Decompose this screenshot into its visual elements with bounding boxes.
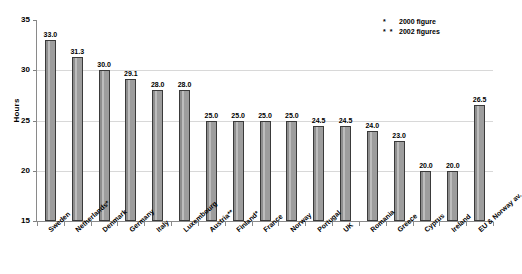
- x-tick-mark: [278, 222, 279, 226]
- x-tick-mark: [225, 222, 226, 226]
- bar-group: 24.0: [367, 20, 378, 221]
- x-axis-label: UK: [342, 221, 354, 233]
- x-tick-mark: [439, 222, 440, 226]
- bar-value-label: 28.0: [151, 81, 165, 88]
- x-tick-mark: [91, 222, 92, 226]
- bar-value-label: 23.0: [392, 132, 406, 139]
- y-tick-label: 25: [8, 117, 30, 125]
- bar-value-label: 25.0: [231, 112, 245, 119]
- bar-group: 24.5: [340, 20, 351, 221]
- bar-group: 25.0: [233, 20, 244, 221]
- bar[interactable]: [447, 171, 458, 221]
- bar-value-label: 31.3: [70, 48, 84, 55]
- chart-legend: *2000 figure* *2002 figures: [383, 18, 440, 38]
- bar-value-label: 29.1: [124, 70, 138, 77]
- bar-value-label: 26.5: [473, 96, 487, 103]
- bar-group: 24.5: [313, 20, 324, 221]
- plot-area: 33.031.330.029.128.028.025.025.025.025.0…: [37, 20, 493, 221]
- bar-value-label: 20.0: [419, 162, 433, 169]
- x-tick-mark: [252, 222, 253, 226]
- legend-label: 2002 figures: [399, 28, 440, 35]
- legend-row: * *2002 figures: [383, 28, 440, 38]
- bar-value-label: 24.0: [365, 122, 379, 129]
- x-tick-mark: [117, 222, 118, 226]
- bar-group: 20.0: [420, 20, 431, 221]
- bar-value-label: 25.0: [205, 112, 219, 119]
- y-tick-label: 20: [8, 167, 30, 175]
- bar-value-label: 28.0: [178, 81, 192, 88]
- bar-value-label: 24.5: [312, 117, 326, 124]
- bar[interactable]: [72, 57, 83, 221]
- bar-group: 31.3: [72, 20, 83, 221]
- y-axis-title: Hours: [12, 81, 21, 141]
- bar[interactable]: [99, 70, 110, 221]
- bar[interactable]: [125, 79, 136, 221]
- legend-marker: * *: [383, 28, 399, 35]
- x-tick-mark: [64, 222, 65, 226]
- bar-group: 28.0: [179, 20, 190, 221]
- bar-value-label: 33.0: [44, 31, 58, 38]
- bar-group: 20.0: [447, 20, 458, 221]
- bar[interactable]: [313, 126, 324, 221]
- bar-group: 23.0: [394, 20, 405, 221]
- bar-value-label: 30.0: [97, 61, 111, 68]
- legend-label: 2000 figure: [399, 18, 436, 25]
- y-tick-label: 15: [8, 217, 30, 225]
- x-tick-mark: [171, 222, 172, 226]
- x-tick-mark: [413, 222, 414, 226]
- bar[interactable]: [394, 141, 405, 221]
- bar-group: 26.5: [474, 20, 485, 221]
- x-tick-mark: [386, 222, 387, 226]
- bar[interactable]: [179, 90, 190, 221]
- x-tick-mark: [37, 222, 38, 226]
- bar[interactable]: [260, 121, 271, 222]
- bar[interactable]: [233, 121, 244, 222]
- bar-group: 25.0: [286, 20, 297, 221]
- bar-group: 28.0: [152, 20, 163, 221]
- bar-group: 29.1: [125, 20, 136, 221]
- bar[interactable]: [45, 40, 56, 221]
- bar[interactable]: [420, 171, 431, 221]
- y-tick-label: 30: [8, 66, 30, 74]
- bar-value-label: 20.0: [446, 162, 460, 169]
- x-tick-mark: [359, 222, 360, 226]
- bar-group: 25.0: [206, 20, 217, 221]
- legend-row: *2000 figure: [383, 18, 440, 28]
- legend-marker: *: [383, 18, 399, 25]
- bar[interactable]: [367, 131, 378, 221]
- bar[interactable]: [286, 121, 297, 222]
- bar[interactable]: [152, 90, 163, 221]
- bar[interactable]: [474, 105, 485, 221]
- bar-group: 25.0: [260, 20, 271, 221]
- y-tick-label: 35: [8, 16, 30, 24]
- bar-group: 33.0: [45, 20, 56, 221]
- bar-value-label: 25.0: [285, 112, 299, 119]
- bar[interactable]: [340, 126, 351, 221]
- bar-value-label: 24.5: [339, 117, 353, 124]
- bar-value-label: 25.0: [258, 112, 272, 119]
- x-axis-line: [36, 221, 493, 222]
- bar-group: 30.0: [99, 20, 110, 221]
